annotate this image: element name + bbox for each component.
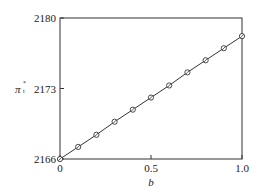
- y-axis-label-subscript: t: [23, 88, 25, 94]
- y-axis-label-symbol: π: [15, 83, 21, 95]
- y-axis-label: π * t: [15, 80, 26, 95]
- data-point-marker: [185, 70, 190, 75]
- data-point-marker: [167, 83, 172, 88]
- x-tick-label: 0.5: [144, 162, 158, 174]
- data-series: [57, 34, 244, 162]
- data-point-marker: [148, 95, 153, 100]
- y-tick-label: 2166: [34, 153, 57, 165]
- data-point-marker: [221, 46, 226, 51]
- y-tick-label: 2173: [34, 83, 57, 95]
- x-tick-label: 1.0: [235, 162, 249, 174]
- y-axis-label-superscript: *: [23, 80, 26, 86]
- data-point-marker: [130, 107, 135, 112]
- y-tick-label: 2180: [34, 12, 57, 24]
- x-axis-label: b: [148, 176, 154, 188]
- chart: 216621732180 00.51.0 b π * t: [0, 0, 264, 194]
- plot-border: [60, 18, 242, 159]
- data-point-marker: [76, 144, 81, 149]
- data-point-marker: [57, 156, 62, 161]
- data-point-marker: [239, 34, 244, 39]
- data-point-marker: [112, 119, 117, 124]
- x-tick-label: 0: [57, 162, 63, 174]
- plot-frame: [60, 18, 242, 159]
- data-point-marker: [94, 132, 99, 137]
- x-axis: 00.51.0: [57, 155, 249, 174]
- data-point-marker: [203, 58, 208, 63]
